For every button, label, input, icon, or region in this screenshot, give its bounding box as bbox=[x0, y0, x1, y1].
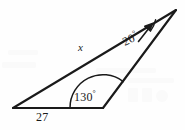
geometry-figure-container: 27 x 130° 20° bbox=[0, 0, 185, 130]
angle-130-value: 130 bbox=[74, 90, 93, 104]
degree-symbol-icon: ° bbox=[93, 89, 96, 98]
triangle-diagram-svg bbox=[0, 0, 185, 130]
label-base-side-length: 27 bbox=[36, 111, 49, 123]
label-angle-130: 130° bbox=[74, 90, 96, 103]
label-unknown-side-x: x bbox=[78, 42, 83, 53]
